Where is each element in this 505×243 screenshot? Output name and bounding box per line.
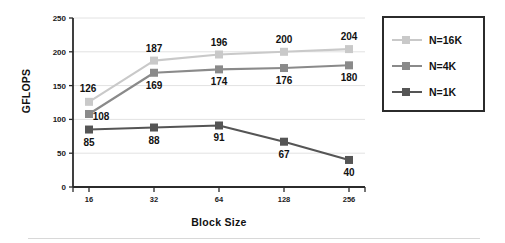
data-point-label: 88 (148, 135, 160, 146)
data-point-marker[interactable] (150, 69, 158, 77)
data-point-marker[interactable] (215, 51, 223, 59)
data-point-label: 40 (343, 167, 355, 178)
data-point-label: 85 (83, 137, 95, 148)
legend-label-2: N=1K (429, 86, 456, 98)
data-point-label: 176 (276, 75, 293, 86)
data-point-label: 108 (93, 111, 110, 122)
legend-item-2[interactable]: N=1K (384, 79, 483, 105)
legend-label-0: N=16K (429, 34, 462, 46)
data-point-marker[interactable] (345, 61, 353, 69)
x-tick-label: 256 (343, 195, 356, 204)
legend-swatch-icon-2 (392, 86, 422, 98)
legend-label-1: N=4K (429, 60, 456, 72)
y-tick-label: 150 (53, 82, 67, 91)
data-point-label: 174 (211, 76, 228, 87)
x-tick-label: 16 (85, 195, 93, 204)
legend-item-1[interactable]: N=4K (384, 53, 483, 79)
data-point-marker[interactable] (345, 45, 353, 53)
legend-swatch-icon-0 (392, 34, 422, 46)
legend-marker-icon-1 (402, 62, 410, 70)
data-point-label: 196 (211, 37, 228, 48)
data-point-marker[interactable] (215, 121, 223, 129)
chart-figure: GFLOPS 050100150200250163264128256126187… (0, 0, 505, 243)
y-tick-label: 250 (53, 14, 67, 23)
data-point-marker[interactable] (280, 64, 288, 72)
data-point-marker[interactable] (85, 98, 93, 106)
data-point-marker[interactable] (280, 138, 288, 146)
data-point-label: 187 (146, 43, 163, 54)
data-point-marker[interactable] (150, 57, 158, 65)
x-axis-title: Block Size (73, 216, 365, 228)
y-tick-label: 100 (53, 115, 67, 124)
data-point-label: 180 (341, 72, 358, 83)
x-tick-label: 128 (278, 195, 291, 204)
data-point-label: 204 (341, 31, 358, 42)
legend-marker-icon-0 (402, 36, 410, 44)
footer-divider (28, 238, 480, 239)
data-point-marker[interactable] (150, 124, 158, 132)
data-point-marker[interactable] (345, 156, 353, 164)
chart-legend: N=16K N=4K N=1K (382, 16, 485, 112)
legend-marker-icon-2 (402, 88, 410, 96)
data-point-marker[interactable] (85, 126, 93, 134)
legend-item-0[interactable]: N=16K (384, 27, 483, 53)
data-point-label: 169 (146, 80, 163, 91)
y-tick-label: 50 (57, 149, 66, 158)
x-tick-label: 32 (150, 195, 158, 204)
data-point-marker[interactable] (280, 48, 288, 56)
data-point-label: 126 (80, 83, 97, 94)
x-tick-label: 64 (215, 195, 224, 204)
data-point-marker[interactable] (215, 65, 223, 73)
data-point-label: 91 (213, 132, 225, 143)
y-tick-label: 200 (53, 48, 67, 57)
legend-swatch-icon-1 (392, 60, 422, 72)
data-point-label: 200 (276, 34, 293, 45)
y-tick-label: 0 (62, 183, 67, 192)
data-point-label: 67 (278, 149, 290, 160)
